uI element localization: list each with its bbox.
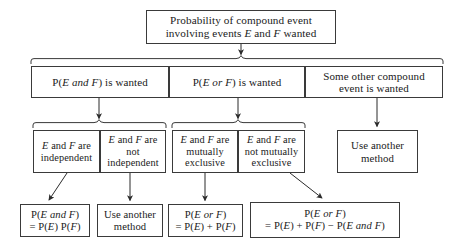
node-or-wanted-label: P(E or F) is wanted	[193, 76, 282, 88]
node-other-compound: Some other compoundevent is wanted	[305, 66, 443, 98]
node-root-label: Probability of compound eventinvolving e…	[166, 14, 317, 39]
node-or-wanted: P(E or F) is wanted	[169, 66, 305, 98]
node-independent-label: E and F areindependent	[41, 140, 92, 163]
node-formula-and-label: P(E and F)= P(E) P(F)	[29, 209, 80, 233]
edge-indep-to-formula	[49, 173, 67, 200]
edge-notmutual-to-formula	[290, 173, 322, 198]
node-use-another-method-top: Use anothermethod	[337, 130, 418, 173]
node-use-another-method-top-label: Use anothermethod	[351, 139, 404, 163]
node-root: Probability of compound eventinvolving e…	[146, 10, 336, 44]
node-and-wanted: P(E and F) is wanted	[31, 66, 169, 98]
node-mutually-exclusive-label: E and F aremutuallyexclusive	[181, 134, 230, 169]
node-formula-or-exclusive: P(E or F)= P(E) + P(F)	[168, 204, 243, 237]
node-not-independent: E and F arenotindependent	[100, 130, 166, 173]
node-mutually-exclusive: E and F aremutuallyexclusive	[172, 130, 238, 173]
node-not-independent-label: E and F arenotindependent	[107, 134, 158, 169]
node-other-compound-label: Some other compoundevent is wanted	[323, 70, 425, 95]
brace-row3-left	[33, 120, 166, 128]
node-formula-and: P(E and F)= P(E) P(F)	[20, 204, 90, 237]
node-not-mutually-exclusive-label: E and F arenot mutuallyexclusive	[245, 134, 299, 169]
node-formula-or-exclusive-label: P(E or F)= P(E) + P(F)	[175, 209, 235, 233]
node-and-wanted-label: P(E and F) is wanted	[52, 76, 148, 88]
brace-row3-right	[172, 120, 305, 128]
node-formula-or-general: P(E or F)= P(E) + P(F) − P(E and F)	[250, 202, 400, 238]
node-use-another-method-bottom: Use anothermethod	[97, 204, 163, 237]
flowchart-canvas: Probability of compound eventinvolving e…	[0, 0, 472, 247]
node-formula-or-general-label: P(E or F)= P(E) + P(F) − P(E and F)	[265, 208, 385, 232]
brace-row2	[31, 56, 443, 64]
node-not-mutually-exclusive: E and F arenot mutuallyexclusive	[238, 130, 305, 173]
node-independent: E and F areindependent	[33, 130, 100, 173]
node-use-another-method-bottom-label: Use anothermethod	[104, 209, 156, 233]
